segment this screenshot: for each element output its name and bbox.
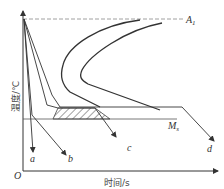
curve-label-b: b <box>68 153 73 164</box>
ms-label: Ms <box>167 120 179 133</box>
cooling-curve-b <box>24 19 66 155</box>
origin-label: O <box>14 170 21 181</box>
x-axis-label: 时间/s <box>104 177 130 188</box>
a1-label: A1 <box>185 14 196 27</box>
transformation-finish-curve <box>81 23 162 110</box>
curve-label-a: a <box>30 153 35 164</box>
transformation-start-curve <box>62 20 140 107</box>
y-axis-label: 温度/℃ <box>10 81 21 112</box>
cooling-curve-d <box>24 19 214 141</box>
cct-diagram: A1 Ms a b c d O 时间/s 温度/℃ <box>0 0 224 189</box>
curve-label-d: d <box>207 143 213 154</box>
curve-label-c: c <box>127 142 132 153</box>
